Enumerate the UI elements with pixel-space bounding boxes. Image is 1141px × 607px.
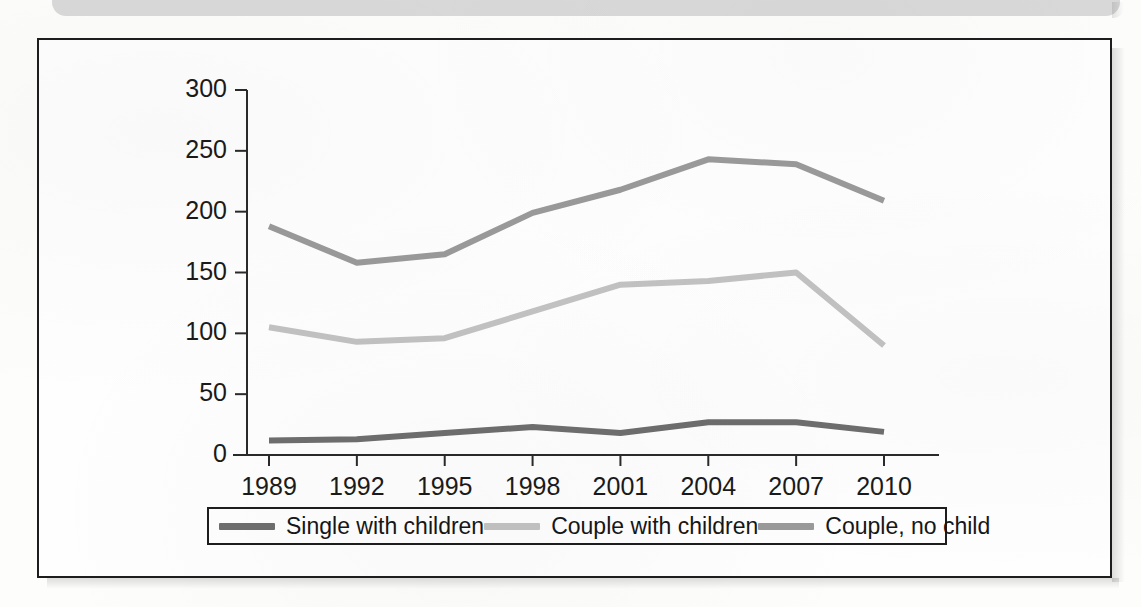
x-tick-label: 2001	[570, 472, 670, 501]
y-tick-label: 0	[149, 439, 227, 468]
x-tick-label: 1992	[307, 472, 407, 501]
legend-label: Couple with children	[551, 513, 758, 540]
y-tick-label: 100	[149, 317, 227, 346]
legend-item[interactable]: Couple, no child	[758, 513, 990, 540]
x-tick-label: 2004	[658, 472, 758, 501]
scanned-page: 050100150200250300 198919921995199820012…	[0, 0, 1141, 607]
legend-swatch-icon	[484, 523, 540, 530]
y-tick-label: 150	[149, 257, 227, 286]
chart-frame: 050100150200250300 198919921995199820012…	[37, 38, 1112, 578]
banner-shadow	[1112, 2, 1124, 18]
legend-label: Couple, no child	[825, 513, 990, 540]
y-tick-label: 300	[149, 74, 227, 103]
x-tick-label: 1989	[219, 472, 319, 501]
legend-item[interactable]: Single with children	[219, 513, 484, 540]
y-tick-label: 50	[149, 378, 227, 407]
x-tick-label: 2010	[834, 472, 934, 501]
y-tick-label: 250	[149, 135, 227, 164]
legend-swatch-icon	[219, 523, 275, 530]
x-tick-label: 1998	[483, 472, 583, 501]
x-tick-label: 2007	[746, 472, 846, 501]
line-chart: 050100150200250300 198919921995199820012…	[39, 40, 1114, 580]
legend-label: Single with children	[286, 513, 484, 540]
x-tick-label: 1995	[395, 472, 495, 501]
y-tick-label: 200	[149, 196, 227, 225]
top-banner-strip	[52, 0, 1120, 16]
legend-swatch-icon	[758, 523, 814, 530]
chart-legend: Single with childrenCouple with children…	[207, 507, 947, 545]
legend-item[interactable]: Couple with children	[484, 513, 758, 540]
